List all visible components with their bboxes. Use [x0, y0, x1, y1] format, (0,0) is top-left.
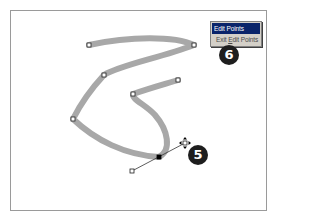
selected-vertex-point[interactable]	[157, 155, 161, 159]
menu-item-label-prefix: Exit	[216, 36, 228, 43]
bezier-handle-point[interactable]	[130, 169, 134, 173]
vertex-point[interactable]	[176, 78, 180, 82]
vertex-point[interactable]	[87, 43, 91, 47]
callout-badge-6: 6	[219, 45, 239, 65]
context-menu: Edit Points Exit Edit Points	[210, 21, 262, 47]
menu-item-label-suffix: dit Points	[232, 36, 258, 43]
callout-badge-5: 5	[188, 145, 208, 165]
move-cursor-icon	[179, 137, 191, 149]
menu-item-edit-points[interactable]: Edit Points	[212, 23, 260, 34]
vertex-point[interactable]	[192, 43, 196, 47]
vertex-point[interactable]	[71, 117, 75, 121]
vertex-point[interactable]	[102, 73, 106, 77]
menu-item-exit-edit-points[interactable]: Exit Edit Points	[212, 34, 260, 45]
vertex-point[interactable]	[131, 92, 135, 96]
freeform-path[interactable]	[73, 38, 194, 157]
